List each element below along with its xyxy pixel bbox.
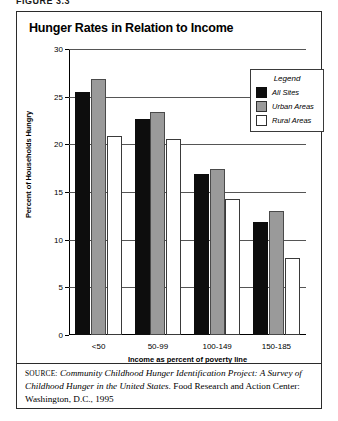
x-tick-label: 50-99 bbox=[148, 342, 168, 351]
bar-all-sites bbox=[75, 92, 90, 335]
bar-rural bbox=[107, 136, 122, 335]
bar-all-sites bbox=[253, 222, 268, 335]
x-tick-label: 100-149 bbox=[202, 342, 231, 351]
chart-plot-area: Percent of Households Hungry 05101520253… bbox=[17, 12, 321, 408]
bar-urban bbox=[150, 112, 165, 335]
bar-rural bbox=[166, 139, 181, 335]
bar-all-sites bbox=[135, 119, 150, 335]
legend-label-rural-areas: Rural Areas bbox=[272, 116, 311, 125]
chart-legend: Legend All Sites Urban Areas Rural Areas bbox=[250, 69, 324, 132]
bar-urban bbox=[91, 79, 106, 335]
legend-swatch-rural-areas bbox=[256, 115, 267, 126]
legend-swatch-urban-areas bbox=[256, 101, 267, 112]
y-tick-label: 0 bbox=[59, 331, 63, 340]
bar-all-sites bbox=[194, 174, 209, 335]
legend-label-urban-areas: Urban Areas bbox=[272, 102, 314, 111]
x-tick-label: 150-185 bbox=[262, 342, 291, 351]
y-tick-label: 20 bbox=[54, 140, 63, 149]
figure-caption: FIGURE 3.3 bbox=[16, 0, 70, 6]
figure-box: Hunger Rates in Relation to Income Perce… bbox=[16, 11, 322, 409]
legend-label-all-sites: All Sites bbox=[272, 88, 299, 97]
legend-item-all-sites: All Sites bbox=[256, 87, 318, 98]
y-tick-label: 30 bbox=[54, 45, 63, 54]
source-note: SOURCE: Community Childhood Hunger Ident… bbox=[25, 367, 313, 405]
legend-item-rural-areas: Rural Areas bbox=[256, 115, 318, 126]
y-axis-title: Percent of Households Hungry bbox=[24, 80, 33, 250]
source-label: SOURCE: bbox=[25, 369, 58, 378]
bar-urban bbox=[269, 211, 284, 335]
y-tick-mark bbox=[65, 335, 69, 336]
legend-title: Legend bbox=[256, 74, 318, 83]
y-tick-label: 10 bbox=[54, 235, 63, 244]
y-tick-label: 5 bbox=[59, 283, 63, 292]
source-divider bbox=[17, 363, 321, 364]
bar-urban bbox=[210, 169, 225, 335]
bar-rural bbox=[225, 199, 240, 335]
x-tick-label: <50 bbox=[92, 342, 106, 351]
y-tick-label: 25 bbox=[54, 92, 63, 101]
bar-group bbox=[75, 49, 121, 335]
bar-rural bbox=[285, 258, 300, 335]
legend-item-urban-areas: Urban Areas bbox=[256, 101, 318, 112]
legend-swatch-all-sites bbox=[256, 87, 267, 98]
y-tick-label: 15 bbox=[54, 188, 63, 197]
bar-group bbox=[194, 49, 240, 335]
bar-group bbox=[135, 49, 181, 335]
